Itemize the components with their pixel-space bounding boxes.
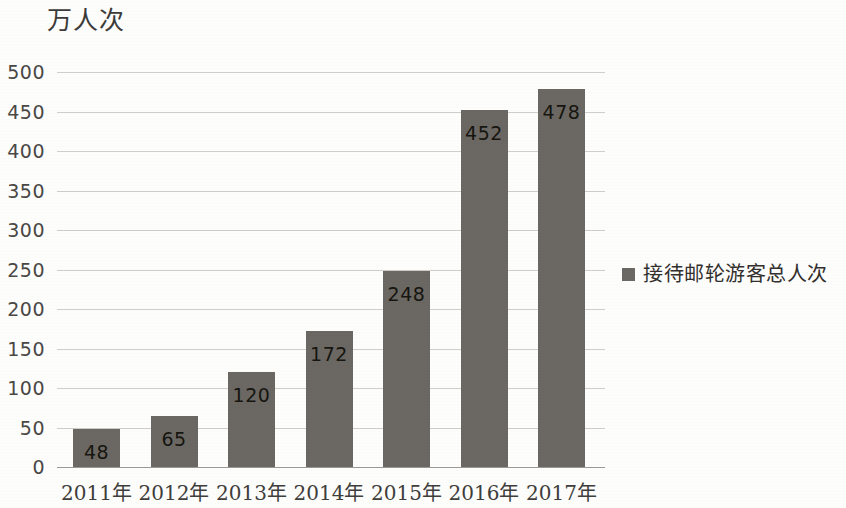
bar-chart: 万人次 050100150200250300350400450500 48651… [0,0,846,508]
bar-value-label: 48 [73,443,120,462]
bar-value-label: 478 [538,103,585,122]
y-axis-tick-label: 0 [0,458,45,477]
y-axis-tick-label: 400 [0,142,45,161]
gridline [57,270,605,271]
axis-baseline [57,467,605,468]
x-axis-tick-label: 2011年 [52,481,142,505]
gridline [57,112,605,113]
y-axis-tick-label: 200 [0,300,45,319]
y-axis-tick-label: 250 [0,261,45,280]
y-axis-labels: 050100150200250300350400450500 [0,0,52,508]
y-axis-tick-label: 500 [0,63,45,82]
y-axis-tick-label: 100 [0,379,45,398]
gridline [57,72,605,73]
x-axis-tick-label: 2017年 [517,481,607,505]
y-axis-tick-label: 350 [0,182,45,201]
bar-value-label: 248 [383,285,430,304]
x-axis-tick-label: 2015年 [362,481,452,505]
chart-unit-title: 万人次 [47,6,125,36]
x-axis-tick-label: 2013年 [207,481,297,505]
legend-entry-label: 接待邮轮游客总人次 [643,262,828,286]
y-axis-tick-label: 150 [0,340,45,359]
y-axis-tick-label: 450 [0,103,45,122]
x-axis-tick-label: 2012年 [129,481,219,505]
x-axis-tick-label: 2016年 [439,481,529,505]
gridline [57,151,605,152]
chart-legend: 接待邮轮游客总人次 [622,262,828,286]
x-axis-tick-label: 2014年 [284,481,374,505]
bar-value-label: 65 [151,430,198,449]
y-axis-tick-label: 300 [0,221,45,240]
bar-value-label: 120 [228,386,275,405]
gridline [57,230,605,231]
bar [461,110,508,467]
y-axis-tick-label: 50 [0,419,45,438]
gridline [57,191,605,192]
legend-swatch-icon [622,268,635,281]
bar-value-label: 452 [461,124,508,143]
plot-area: 4865120172248452478 [57,72,605,467]
bar-value-label: 172 [306,345,353,364]
bar [538,89,585,467]
gridline [57,309,605,310]
